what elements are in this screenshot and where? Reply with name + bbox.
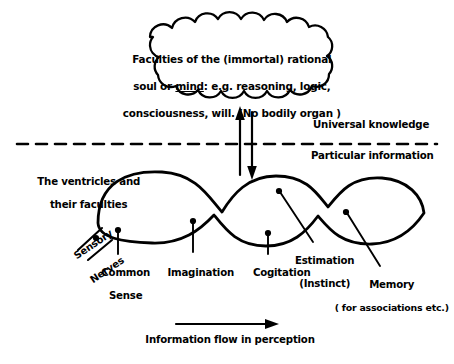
ventricles-shape <box>98 172 424 246</box>
cloud-line-1: Faculties of the (immortal) rational <box>132 53 331 65</box>
cloud-line-2a: soul or <box>133 80 175 92</box>
flow-arrow-head <box>265 319 279 329</box>
ventricle-label-imagination: Imagination <box>151 256 237 290</box>
arrow-down-head <box>247 166 257 180</box>
cloud-line-3: consciousness, will. (No bodily organ ) <box>123 107 341 119</box>
memory-line-1: Memory <box>369 279 414 290</box>
ventricle-label-common-sense: Common Sense <box>84 256 154 313</box>
universal-knowledge-label: Universal knowledge <box>313 119 429 130</box>
leader-dot-estimation <box>276 188 282 194</box>
leader-dot-memory <box>343 209 349 215</box>
ventricles-caption-line-1: The ventricles and <box>37 176 140 187</box>
common-sense-line-1: Common <box>101 267 150 278</box>
cloud-line-2b: : e.g. reasoning, logic, <box>204 80 331 92</box>
estimation-line-1: Estimation <box>295 255 355 266</box>
imagination-line-1: Imagination <box>167 267 234 278</box>
cloud-line-2-underlined: mind <box>175 80 203 92</box>
leader-dot-imagination <box>190 218 196 224</box>
information-flow-caption: Information flow in perception <box>110 334 350 345</box>
particular-information-label: Particular information <box>311 150 434 161</box>
memory-line-2: ( for associations etc.) <box>335 302 449 313</box>
ventricle-label-memory: Memory ( for associations etc.) <box>318 268 452 325</box>
ventricles-caption-line-2: their faculties <box>50 199 128 210</box>
ventricles-caption: The ventricles and their faculties <box>22 165 142 222</box>
flow-arrow-group <box>176 319 279 329</box>
diagram-canvas: Faculties of the (immortal) rational sou… <box>0 0 454 364</box>
common-sense-line-2: Sense <box>109 290 142 301</box>
leader-dot-common-sense <box>115 227 121 233</box>
leader-dot-cogitation <box>265 230 271 236</box>
